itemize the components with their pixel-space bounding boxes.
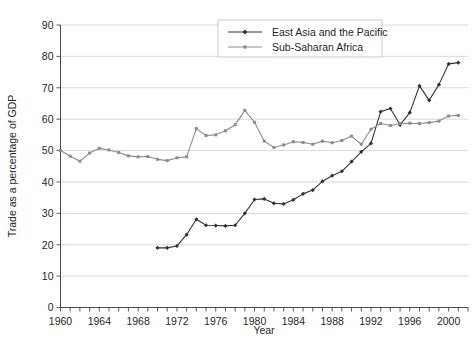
data-point (350, 135, 353, 138)
y-tick-labels: 0102030405060708090 (42, 19, 54, 314)
data-point (195, 127, 198, 130)
legend: East Asia and the PacificSub-Saharan Afr… (218, 20, 388, 57)
y-tick-label: 60 (42, 113, 54, 125)
legend-label: Sub-Saharan Africa (272, 41, 363, 53)
data-point (175, 156, 178, 159)
series-group (59, 61, 460, 250)
data-point (272, 146, 275, 149)
data-point (165, 246, 169, 250)
y-tick-label: 40 (42, 176, 54, 188)
y-tick-label: 80 (42, 50, 54, 62)
data-point (263, 140, 266, 143)
legend-marker (243, 45, 246, 48)
x-tick-label: 1972 (165, 315, 189, 327)
y-tick-label: 50 (42, 144, 54, 156)
y-tick-label: 10 (42, 270, 54, 282)
x-tick-label: 1988 (320, 315, 344, 327)
data-point (155, 246, 159, 250)
x-tick-label: 1996 (398, 315, 422, 327)
x-tick-label: 1968 (126, 315, 150, 327)
y-tick-label: 90 (42, 19, 54, 31)
data-point (282, 202, 286, 206)
data-point (185, 155, 188, 158)
x-tick-label: 1976 (204, 315, 228, 327)
y-axis-title: Trade as a percentage of GDP (6, 95, 18, 238)
data-point (389, 124, 392, 127)
data-point (331, 141, 334, 144)
data-point (321, 140, 324, 143)
y-tick-label: 30 (42, 207, 54, 219)
data-point (302, 141, 305, 144)
x-tick-label: 1960 (49, 315, 73, 327)
data-point (399, 122, 402, 125)
data-point (311, 143, 314, 146)
data-point (437, 120, 440, 123)
data-point (127, 154, 130, 157)
data-point (205, 134, 208, 137)
data-point (282, 143, 285, 146)
data-point (243, 109, 246, 112)
data-point (272, 201, 276, 205)
data-point (166, 159, 169, 162)
data-point (214, 133, 217, 136)
data-point (88, 152, 91, 155)
series-line (158, 63, 459, 248)
data-point (340, 139, 343, 142)
data-point (156, 158, 159, 161)
data-point (117, 151, 120, 154)
data-point (234, 123, 237, 126)
line-chart: 0102030405060708090 19601964196819721976… (0, 0, 475, 343)
data-point (59, 149, 62, 152)
data-point (262, 197, 266, 201)
data-point (457, 114, 460, 117)
data-point (69, 155, 72, 158)
data-point (408, 122, 411, 125)
data-point (137, 155, 140, 158)
gridlines-group (61, 25, 469, 276)
series-2 (59, 109, 460, 163)
y-tick-label: 70 (42, 82, 54, 94)
y-axis-group: 0102030405060708090 (42, 19, 61, 314)
data-point (447, 115, 450, 118)
legend-label: East Asia and the Pacific (272, 26, 388, 38)
data-point (224, 129, 227, 132)
x-tick-label: 1964 (88, 315, 112, 327)
data-point (379, 110, 383, 114)
data-point (428, 121, 431, 124)
data-point (78, 160, 81, 163)
data-point (418, 122, 421, 125)
data-point (360, 143, 363, 146)
series-1 (155, 61, 460, 250)
y-tick-label: 0 (48, 301, 54, 313)
data-point (456, 61, 460, 65)
data-point (369, 128, 372, 131)
data-point (98, 147, 101, 150)
data-point (379, 122, 382, 125)
x-axis-title: Year (253, 324, 275, 336)
data-point (108, 148, 111, 151)
data-point (253, 121, 256, 124)
y-tick-label: 20 (42, 239, 54, 251)
y-tick-marks (57, 25, 61, 308)
x-tick-label: 1992 (359, 315, 383, 327)
data-point (446, 62, 450, 66)
x-tick-marks (61, 308, 469, 312)
chart-container: 0102030405060708090 19601964196819721976… (0, 0, 475, 343)
x-tick-label: 1984 (282, 315, 306, 327)
x-tick-label: 2000 (437, 315, 461, 327)
data-point (146, 155, 149, 158)
data-point (292, 140, 295, 143)
data-point (223, 224, 227, 228)
data-point (214, 223, 218, 227)
